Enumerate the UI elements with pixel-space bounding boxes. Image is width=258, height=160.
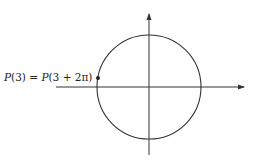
label-equals: =: [26, 71, 41, 83]
point-p3: [96, 76, 100, 80]
label-arg-right: (3 + 2π): [49, 71, 93, 83]
label-arg-left: (3): [11, 71, 26, 83]
label-p-right: P: [41, 71, 48, 83]
point-label: P(3) = P(3 + 2π): [4, 71, 92, 83]
